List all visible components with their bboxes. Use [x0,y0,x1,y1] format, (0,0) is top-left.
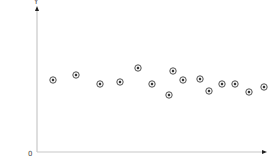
data-point [73,72,79,78]
y-axis [35,6,39,152]
data-point [206,88,212,94]
data-point [219,81,225,87]
data-point [232,81,238,87]
data-point [197,76,203,82]
x-axis-arrow-icon [262,150,267,154]
x-axis [37,150,267,154]
data-point [261,84,267,90]
origin-label: 0 [28,150,32,158]
data-point [180,77,186,83]
y-axis-label: Y [34,0,38,6]
y-axis-arrow-icon [35,6,39,11]
data-point [149,81,155,87]
data-point [135,65,141,71]
scatter-plot [0,0,268,160]
data-point [166,92,172,98]
data-point [246,89,252,95]
data-point [170,68,176,74]
data-point [117,79,123,85]
data-points [50,65,267,98]
data-point [50,77,56,83]
data-point [97,81,103,87]
